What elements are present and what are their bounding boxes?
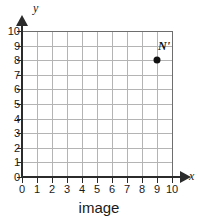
- y-axis-tick-label: 10: [8, 26, 20, 37]
- grid-line-horizontal: [22, 162, 172, 163]
- x-axis-tick-label: 2: [49, 184, 55, 195]
- y-axis-label: y: [33, 2, 38, 14]
- y-axis-tick-label: 9: [14, 40, 20, 51]
- grid-line-horizontal: [22, 133, 172, 134]
- x-axis-tick-label: 9: [154, 184, 160, 195]
- x-axis-tick-label: 5: [94, 184, 100, 195]
- y-axis-tick-label: 0: [14, 172, 20, 183]
- x-axis-line: [22, 176, 182, 178]
- grid-line-horizontal: [22, 60, 172, 61]
- x-axis-tick-label: 4: [79, 184, 85, 195]
- x-axis-tick-label: 0: [19, 184, 25, 195]
- x-axis-tick-label: 6: [109, 184, 115, 195]
- grid-line-horizontal: [22, 148, 172, 149]
- y-axis-tick-label: 2: [14, 142, 20, 153]
- grid-lines: [22, 31, 172, 177]
- x-axis-label: x: [189, 170, 194, 182]
- y-axis-tick-label: 4: [14, 113, 20, 124]
- grid-line-vertical: [172, 31, 173, 177]
- y-axis-line: [21, 24, 23, 178]
- y-axis-tick-label: 7: [14, 69, 20, 80]
- plot-area: [22, 31, 172, 177]
- y-axis-tick-label: 1: [14, 157, 20, 168]
- grid-line-horizontal: [22, 46, 172, 47]
- x-axis-tick-label: 3: [64, 184, 70, 195]
- grid-line-horizontal: [22, 89, 172, 90]
- y-axis-tick-label: 8: [14, 55, 20, 66]
- y-axis-tick-label: 5: [14, 99, 20, 110]
- coordinate-plane-figure: 012345678910 012345678910 y x N' image: [0, 0, 198, 220]
- figure-caption: image: [0, 200, 198, 215]
- x-axis-tick-label: 7: [124, 184, 130, 195]
- data-point-label: N': [158, 40, 170, 52]
- grid-line-horizontal: [22, 31, 172, 32]
- y-axis-tick-label: 3: [14, 128, 20, 139]
- grid-line-horizontal: [22, 119, 172, 120]
- x-axis-tick-label: 1: [34, 184, 40, 195]
- grid-line-horizontal: [22, 104, 172, 105]
- x-axis-tick-label: 10: [166, 184, 178, 195]
- x-axis-tick-label: 8: [139, 184, 145, 195]
- data-point-dot: [154, 57, 161, 64]
- y-axis-tick-label: 6: [14, 84, 20, 95]
- grid-line-horizontal: [22, 75, 172, 76]
